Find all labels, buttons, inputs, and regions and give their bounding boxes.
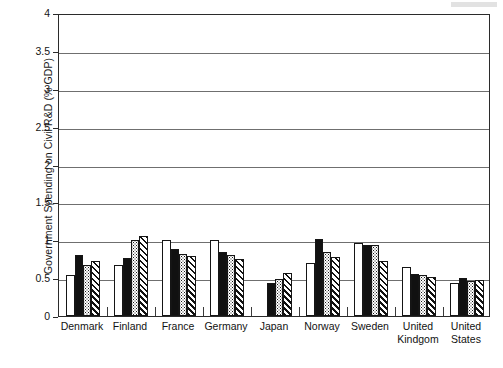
y-tick-label: 0 [8, 310, 50, 322]
x-tick-mark [443, 307, 444, 316]
y-tick-label: 1.5 [8, 196, 50, 208]
x-tick-mark [395, 307, 396, 316]
y-tick-mark [53, 90, 58, 91]
bar [379, 261, 387, 316]
bar [323, 252, 331, 316]
bar [275, 279, 283, 316]
bar [83, 265, 91, 316]
bar [363, 245, 371, 316]
y-tick-mark [53, 241, 58, 242]
x-axis-label-line1: France [162, 320, 195, 332]
x-axis-label-line1: United [403, 320, 433, 332]
bar [402, 267, 410, 316]
x-axis-labels: DenmarkFinlandFranceGermanyJapanNorwaySw… [58, 320, 490, 366]
x-axis-label: Finland [106, 320, 154, 333]
y-tick-mark [53, 128, 58, 129]
x-axis-label: France [154, 320, 202, 333]
y-tick-mark [53, 317, 58, 318]
bars-layer [59, 15, 489, 316]
bar [475, 280, 483, 316]
y-tick-mark [53, 52, 58, 53]
y-tick-label: 1 [8, 234, 50, 246]
y-tick-mark [53, 14, 58, 15]
bar [139, 236, 147, 316]
bar [371, 245, 379, 316]
bar [179, 254, 187, 316]
x-axis-label-line1: Sweden [351, 320, 389, 332]
bar [267, 283, 275, 316]
x-axis-label: UnitedStates [442, 320, 490, 345]
y-tick-label: 3.5 [8, 45, 50, 57]
bar [467, 281, 475, 316]
x-axis-label: Germany [202, 320, 250, 333]
y-tick-mark [53, 166, 58, 167]
bar-group [107, 15, 155, 316]
bar [459, 278, 467, 316]
x-axis-label-line2: States [442, 333, 490, 346]
bar [171, 249, 179, 316]
bar [210, 240, 218, 317]
bar [187, 256, 195, 316]
bar [306, 263, 314, 316]
bar [315, 239, 323, 316]
y-tick-mark [53, 203, 58, 204]
chart-container: Government Spending on Civil R&D (% GDP)… [0, 0, 503, 368]
x-axis-label-line2: Kindgom [394, 333, 442, 346]
x-tick-mark [155, 307, 156, 316]
x-axis-label-line1: Finland [113, 320, 147, 332]
y-tick-label: 3 [8, 83, 50, 95]
y-tick-label: 4 [8, 7, 50, 19]
bar [354, 243, 362, 316]
bar [227, 255, 235, 316]
bar-group [347, 15, 395, 316]
plot-area [58, 14, 490, 317]
bar [411, 274, 419, 316]
bar-group [299, 15, 347, 316]
bar [162, 240, 170, 316]
x-tick-mark [347, 307, 348, 316]
scan-artifact [451, 2, 497, 7]
y-tick-label: 0.5 [8, 272, 50, 284]
bar-group [203, 15, 251, 316]
bar-group [251, 15, 299, 316]
bar [114, 265, 122, 317]
bar-group [443, 15, 491, 316]
bar [331, 257, 339, 316]
x-axis-label-line1: Japan [260, 320, 289, 332]
bar [123, 258, 131, 316]
x-axis-label-line1: Germany [204, 320, 247, 332]
y-tick-label: 2.5 [8, 121, 50, 133]
x-tick-mark [107, 307, 108, 316]
x-axis-label-line1: United [451, 320, 481, 332]
bar-group [395, 15, 443, 316]
bar [427, 277, 435, 316]
bar [283, 273, 291, 316]
bar-group [155, 15, 203, 316]
x-axis-label: Sweden [346, 320, 394, 333]
x-tick-mark [203, 307, 204, 316]
x-axis-label-line1: Denmark [61, 320, 104, 332]
y-tick-mark [53, 279, 58, 280]
x-tick-mark [251, 307, 252, 316]
x-axis-label: UnitedKindgom [394, 320, 442, 345]
x-axis-label: Japan [250, 320, 298, 333]
bar [91, 261, 99, 316]
bar [419, 275, 427, 316]
y-tick-label: 2 [8, 159, 50, 171]
bar-group [59, 15, 107, 316]
bar [219, 252, 227, 316]
x-axis-label-line1: Norway [304, 320, 340, 332]
bar [235, 259, 243, 316]
x-axis-label: Denmark [58, 320, 106, 333]
bar [131, 240, 139, 316]
bar [66, 275, 74, 316]
x-axis-label: Norway [298, 320, 346, 333]
x-tick-mark [299, 307, 300, 316]
bar [75, 255, 83, 316]
bar [450, 283, 458, 316]
